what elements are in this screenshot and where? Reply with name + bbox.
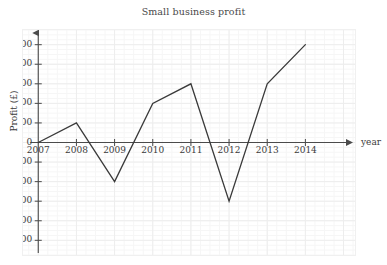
x-axis-label: year (361, 137, 381, 147)
x-tick-label: 2012 (212, 145, 246, 155)
profit-line (38, 45, 305, 202)
y-tick-label: −2000 (22, 156, 32, 166)
y-tick-label: −10000 (22, 234, 32, 244)
chart-title: Small business profit (0, 6, 387, 17)
y-axis-label: Profit (£) (9, 81, 19, 141)
y-tick-label: 8000 (22, 58, 32, 68)
plot-area: 1000080006000400020000−2000−4000−6000−80… (22, 29, 356, 256)
x-tick-label: 2008 (59, 145, 93, 155)
x-tick-label: 2013 (250, 145, 284, 155)
y-tick-label: 4000 (22, 97, 32, 107)
chart-figure: Small business profit 100008000600040002… (0, 0, 387, 265)
x-tick-label: 2009 (98, 145, 132, 155)
y-tick-label: 2000 (22, 117, 32, 127)
x-tick-label: 2010 (136, 145, 170, 155)
y-tick-label: 10000 (22, 39, 32, 49)
y-tick-label: −4000 (22, 176, 32, 186)
x-tick-label: 2014 (288, 145, 322, 155)
y-tick-label: 6000 (22, 78, 32, 88)
data-series-layer (23, 30, 355, 255)
x-tick-label: 2011 (174, 145, 208, 155)
y-tick-label: −6000 (22, 195, 32, 205)
x-tick-label: 2007 (22, 145, 55, 155)
y-tick-label: −8000 (22, 215, 32, 225)
